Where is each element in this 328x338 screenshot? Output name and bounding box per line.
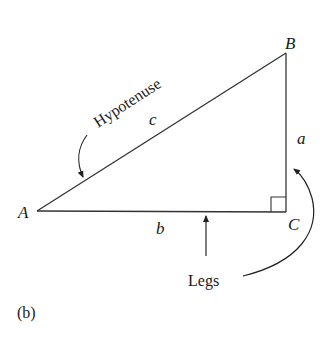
side-label-a: a xyxy=(297,129,306,148)
diagram-canvas: A B C c a b Hypotenuse Legs (b) xyxy=(0,0,328,338)
right-triangle-diagram: A B C c a b Hypotenuse Legs (b) xyxy=(0,0,328,338)
vertex-label-c: C xyxy=(288,215,300,234)
leg-side-b xyxy=(37,211,286,212)
hypotenuse-side-c xyxy=(37,53,286,211)
legs-pointer-arrow-a-icon xyxy=(243,169,314,276)
legs-annotation: Legs xyxy=(188,272,219,290)
vertex-label-b: B xyxy=(285,34,296,53)
side-label-b: b xyxy=(156,219,165,238)
right-angle-marker xyxy=(271,197,286,212)
triangle xyxy=(37,53,286,212)
side-label-c: c xyxy=(149,110,157,129)
panel-label: (b) xyxy=(17,304,36,322)
vertex-label-a: A xyxy=(17,203,29,222)
hypotenuse-pointer-arrow-icon xyxy=(79,135,87,177)
